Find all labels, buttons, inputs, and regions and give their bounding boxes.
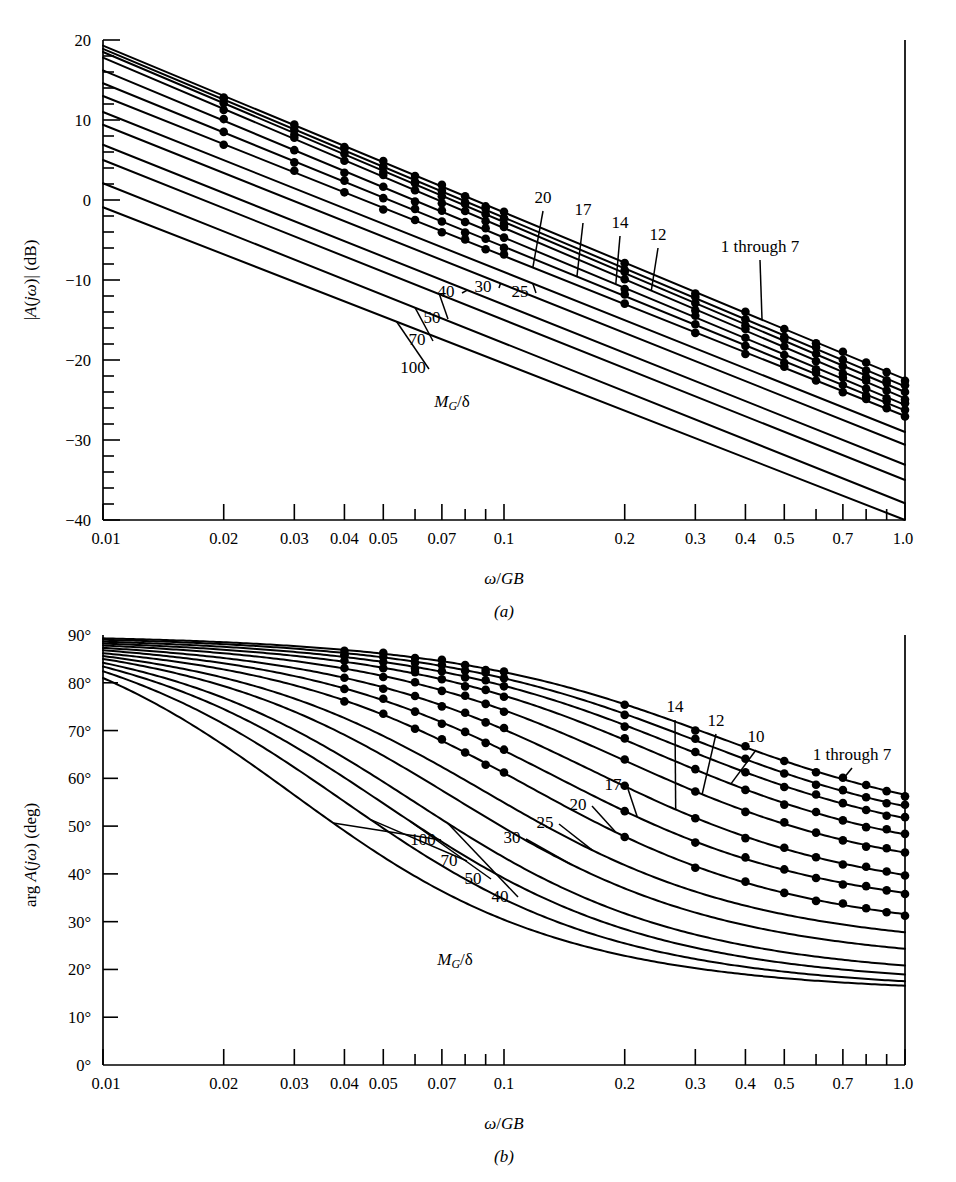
curve-label: 1 through 7 (813, 745, 892, 764)
curve-label: 17 (575, 200, 593, 219)
x-tick-label: 0.05 (369, 1074, 398, 1093)
data-point-marker (620, 833, 629, 842)
y-tick-label: −40 (65, 511, 91, 530)
data-point-marker (812, 376, 821, 385)
data-point-marker (882, 404, 891, 413)
panel-a: 20100−10−20−30−40|A(jω)| (dB)0.010.020.0… (21, 31, 913, 621)
curve-label: 14 (667, 697, 685, 716)
data-point-marker (379, 182, 388, 191)
curve-label: 30 (504, 828, 521, 847)
data-point-marker (862, 395, 871, 404)
x-tick-label: 0.07 (427, 529, 456, 548)
data-point-marker (691, 320, 700, 329)
data-point-marker (500, 233, 509, 242)
data-point-marker (290, 158, 299, 167)
data-point-marker (691, 765, 700, 774)
data-point-marker (812, 790, 821, 799)
panel-caption: (b) (494, 1147, 514, 1166)
data-point-marker (839, 347, 848, 356)
x-tick-label: 0.5 (774, 529, 795, 548)
curve-label: 40 (492, 887, 509, 906)
data-point-marker (219, 115, 228, 124)
data-point-marker (741, 853, 750, 862)
curve-label: 50 (424, 308, 441, 327)
data-point-marker (379, 664, 388, 673)
data-point-marker (620, 734, 629, 743)
x-tick-label: 0.02 (209, 1074, 238, 1093)
data-point-marker (379, 171, 388, 180)
data-point-marker (741, 350, 750, 359)
data-point-marker (691, 863, 700, 872)
data-point-marker (481, 668, 490, 677)
data-point-marker (620, 700, 629, 709)
y-axis-title: |A(jω)| (dB) (21, 240, 40, 321)
data-point-marker (741, 754, 750, 763)
data-point-marker (500, 674, 509, 683)
data-point-marker (882, 844, 891, 853)
y-tick-label: 50° (68, 817, 91, 836)
data-point-marker (812, 853, 821, 862)
data-point-marker (481, 676, 490, 685)
data-point-marker (500, 250, 509, 259)
y-tick-label: −10 (65, 271, 91, 290)
curve-label-leader (760, 260, 762, 320)
data-point-marker (862, 358, 871, 367)
data-point-marker (812, 808, 821, 817)
data-point-marker (461, 207, 470, 216)
data-point-marker (862, 882, 871, 891)
y-tick-label: −20 (65, 351, 91, 370)
curve-label: 20 (570, 795, 587, 814)
data-point-marker (340, 156, 349, 165)
data-point-marker (882, 799, 891, 808)
data-point-marker (438, 206, 447, 215)
x-tick-label: 0.3 (685, 1074, 706, 1093)
data-point-marker (780, 757, 789, 766)
x-axis-title: ω/GB (484, 1114, 524, 1133)
data-point-marker (620, 755, 629, 764)
y-tick-label: 0° (76, 1056, 91, 1075)
data-point-marker (812, 897, 821, 906)
curve-label-leader (843, 768, 852, 779)
data-point-marker (882, 386, 891, 395)
y-tick-label: −30 (65, 431, 91, 450)
data-point-marker (780, 783, 789, 792)
data-point-marker (411, 205, 420, 214)
data-point-marker (882, 811, 891, 820)
data-point-marker (839, 899, 848, 908)
data-point-marker (620, 290, 629, 299)
curve-line (103, 125, 905, 445)
data-point-marker (862, 793, 871, 802)
data-point-marker (882, 368, 891, 377)
curve-label-leader (526, 839, 570, 864)
data-point-marker (461, 691, 470, 700)
curve-label: 14 (612, 213, 630, 232)
x-tick-label: 1.0 (893, 1074, 914, 1093)
data-point-marker (379, 194, 388, 203)
curve-line (103, 145, 905, 465)
data-point-marker (481, 700, 490, 709)
data-point-marker (901, 792, 910, 801)
data-point-marker (379, 709, 388, 718)
figure-container: 20100−10−20−30−40|A(jω)| (dB)0.010.020.0… (0, 0, 956, 1182)
data-point-marker (812, 874, 821, 883)
data-point-marker (481, 739, 490, 748)
data-point-marker (481, 760, 490, 769)
data-point-marker (882, 825, 891, 834)
data-point-marker (340, 685, 349, 694)
data-point-marker (839, 860, 848, 869)
panel-caption: (a) (494, 602, 514, 621)
data-point-marker (839, 836, 848, 845)
data-point-marker (340, 673, 349, 682)
data-point-marker (620, 711, 629, 720)
data-point-marker (741, 834, 750, 843)
data-point-marker (500, 223, 509, 232)
data-point-marker (411, 216, 420, 225)
curve-label: 10 (748, 727, 765, 746)
data-point-marker (438, 217, 447, 226)
data-point-marker (862, 862, 871, 871)
data-point-marker (901, 388, 910, 397)
data-point-marker (379, 673, 388, 682)
data-point-marker (620, 722, 629, 731)
figure-svg: 20100−10−20−30−40|A(jω)| (dB)0.010.020.0… (0, 0, 956, 1182)
data-point-marker (839, 880, 848, 889)
